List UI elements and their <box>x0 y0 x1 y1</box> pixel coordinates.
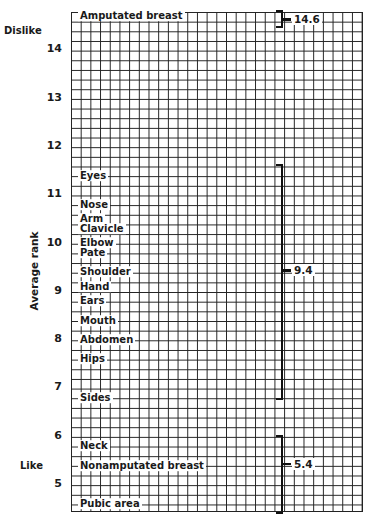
bracket-mean-tick <box>283 463 291 466</box>
group-bracket <box>276 435 283 514</box>
y-axis-label: Average rank <box>28 232 40 311</box>
y-tick: 8 <box>40 332 62 345</box>
item-label: Clavicle <box>78 223 126 234</box>
item-label: Abdomen <box>78 334 135 345</box>
y-tick: 5 <box>40 477 62 490</box>
item-label: Neck <box>78 440 110 451</box>
bracket-mean-tick <box>283 269 291 272</box>
y-tick: 9 <box>40 283 62 296</box>
item-label: Hips <box>78 353 107 364</box>
item-label: Amputated breast <box>78 11 185 22</box>
group-mean-label: 5.4 <box>292 458 315 470</box>
dislike-label: Dislike <box>4 25 42 36</box>
group-bracket <box>276 10 283 28</box>
group-mean-label: 9.4 <box>292 264 315 276</box>
group-mean-label: 14.6 <box>292 13 322 25</box>
item-label: Shoulder <box>78 266 133 277</box>
y-tick: 7 <box>40 380 62 393</box>
item-label: Ears <box>78 295 106 306</box>
item-label: Hand <box>78 281 111 292</box>
y-tick: 10 <box>40 235 62 248</box>
item-label: Nonamputated breast <box>78 460 206 471</box>
average-rank-chart: 567891011121314 Dislike Like Average ran… <box>0 0 379 526</box>
y-tick: 6 <box>40 428 62 441</box>
item-label: Nose <box>78 199 110 210</box>
item-label: Sides <box>78 392 113 403</box>
item-label: Mouth <box>78 315 118 326</box>
grid <box>71 12 363 512</box>
y-tick: 11 <box>40 187 62 200</box>
bracket-mean-tick <box>283 18 291 21</box>
item-label: Eyes <box>78 170 108 181</box>
y-tick: 14 <box>40 42 62 55</box>
item-label: Pate <box>78 247 107 258</box>
group-bracket <box>276 164 283 400</box>
like-label: Like <box>20 460 43 471</box>
item-label: Pubic area <box>78 498 142 509</box>
y-tick: 13 <box>40 90 62 103</box>
y-tick: 12 <box>40 138 62 151</box>
